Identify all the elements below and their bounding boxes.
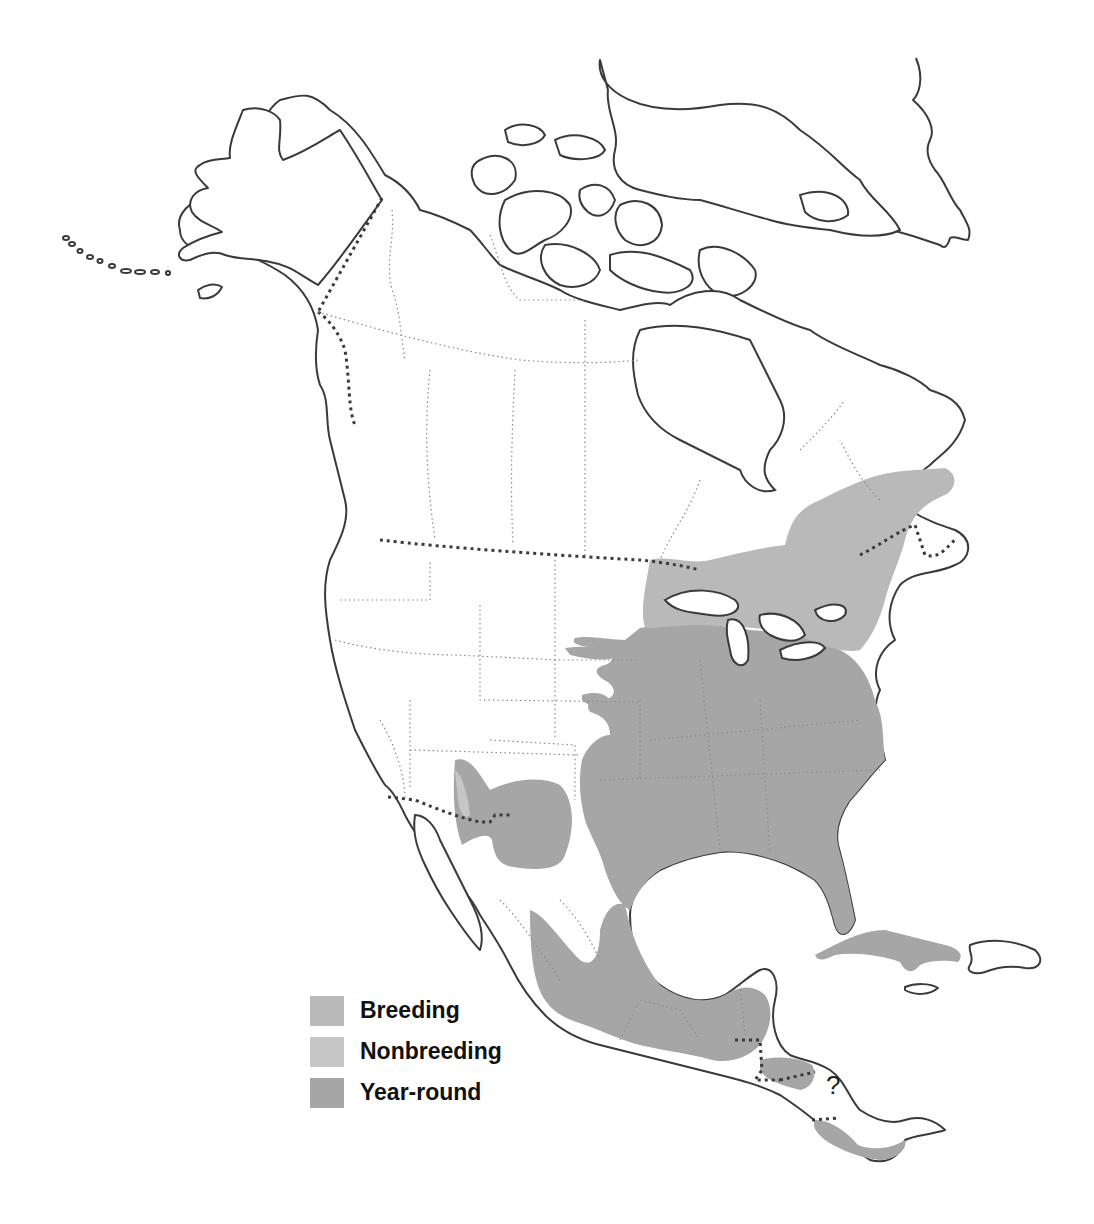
year-round-swatch bbox=[310, 1078, 344, 1108]
uncertain-range-marker: ? bbox=[826, 1070, 840, 1101]
greenland-coast bbox=[885, 58, 970, 247]
legend-item-nonbreeding: Nonbreeding bbox=[310, 1033, 502, 1070]
map-legend: Breeding Nonbreeding Year-round bbox=[310, 992, 502, 1115]
range-map bbox=[0, 0, 1094, 1224]
legend-label: Nonbreeding bbox=[360, 1038, 502, 1065]
cuba bbox=[815, 930, 961, 971]
hispaniola bbox=[969, 941, 1041, 973]
jamaica bbox=[905, 984, 938, 994]
breeding-swatch bbox=[310, 996, 344, 1026]
nonbreeding-swatch bbox=[310, 1037, 344, 1067]
legend-label: Breeding bbox=[360, 997, 460, 1024]
legend-label: Year-round bbox=[360, 1079, 481, 1106]
year-round-range-east bbox=[574, 624, 885, 934]
legend-item-year-round: Year-round bbox=[310, 1074, 502, 1111]
legend-item-breeding: Breeding bbox=[310, 992, 502, 1029]
